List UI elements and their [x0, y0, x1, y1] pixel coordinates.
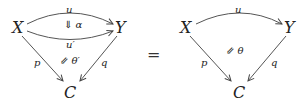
- node-c: C: [64, 83, 76, 102]
- label-u-prime: u′: [66, 39, 75, 50]
- label-u: u: [235, 4, 241, 15]
- equals-sign: =: [147, 45, 160, 64]
- node-y: Y: [115, 18, 127, 37]
- arrow-p: [190, 36, 231, 81]
- arrow-q: [248, 36, 286, 81]
- left-diagram: X Y C u ⇓ α u′ ⇙ θ′ p q: [10, 4, 127, 102]
- right-diagram: X Y C u ⇙ θ p q: [178, 4, 296, 102]
- node-x: X: [178, 18, 192, 37]
- label-q: q: [101, 57, 107, 68]
- node-y: Y: [284, 18, 296, 37]
- label-p: p: [201, 57, 208, 68]
- arrow-q: [80, 36, 117, 81]
- two-cell-theta: ⇙ θ: [226, 45, 244, 56]
- two-cell-theta-prime: ⇙ θ′: [60, 55, 81, 66]
- two-cell-alpha: ⇓ α: [64, 19, 83, 30]
- label-q: q: [271, 57, 277, 68]
- label-u: u: [66, 4, 72, 15]
- arrow-p: [22, 36, 63, 81]
- node-x: X: [10, 18, 24, 37]
- node-c: C: [233, 83, 245, 102]
- commutative-diagram: X Y C u ⇓ α u′ ⇙ θ′ p q = X Y C u ⇙ θ p …: [0, 0, 305, 104]
- label-p: p: [34, 57, 41, 68]
